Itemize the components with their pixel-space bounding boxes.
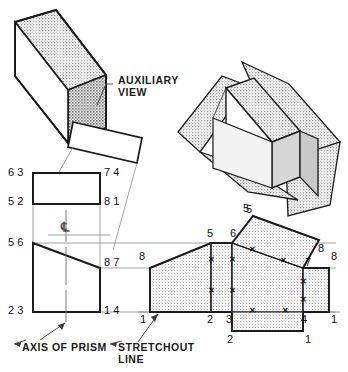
- top-view-outline: [33, 173, 100, 204]
- label-pattern-8-flap: 8: [318, 242, 324, 254]
- stretchout-line-label: STRETCHOUTLINE: [118, 341, 195, 365]
- svg-text:✕: ✕: [229, 286, 236, 295]
- wrapped-pattern-view: [178, 62, 340, 216]
- label-pattern-4: 4: [301, 313, 307, 325]
- label-top-view-7-4: 7 4: [104, 166, 119, 178]
- svg-text:✕: ✕: [249, 306, 256, 315]
- label-assembly-5: 5: [243, 202, 249, 214]
- label-pattern-1-flap: 1: [305, 333, 311, 345]
- label-pattern-2-flap: 2: [227, 333, 233, 345]
- label-pattern-5: 5: [207, 227, 213, 239]
- svg-text:✕: ✕: [282, 306, 289, 315]
- label-pattern-8-right: 8: [331, 250, 337, 262]
- label-pattern-8-left: 8: [139, 250, 145, 262]
- drawing-canvas: ✕ ✕ ✕ ✕ ✕ ✕ ✕ ✕ ✕ ✕: [0, 0, 348, 372]
- isometric-prism-view: [15, 10, 106, 143]
- label-pattern-7: 7: [305, 256, 311, 268]
- svg-text:✕: ✕: [300, 295, 307, 304]
- svg-text:✕: ✕: [229, 255, 236, 264]
- pattern-panel-2: [211, 243, 232, 312]
- centerline-symbol: ℄: [61, 220, 69, 233]
- label-front-view-5-6: 5 6: [8, 236, 23, 248]
- label-pattern-3: 3: [226, 313, 232, 325]
- label-pattern-1-left: 1: [140, 313, 146, 325]
- label-front-view-2-3: 2 3: [8, 304, 23, 316]
- label-pattern-6: 6: [230, 227, 236, 239]
- svg-text:✕: ✕: [208, 286, 215, 295]
- pattern-panel-1: [150, 243, 211, 312]
- pattern-bottom-flap: [232, 312, 303, 331]
- svg-text:✕: ✕: [208, 255, 215, 264]
- svg-text:✕: ✕: [300, 277, 307, 286]
- label-top-view-5-2: 5 2: [8, 195, 23, 207]
- svg-text:✕: ✕: [280, 256, 287, 265]
- label-pattern-2: 2: [207, 313, 213, 325]
- label-top-view-6-3: 6 3: [8, 166, 23, 178]
- front-view-outline: [33, 243, 100, 312]
- svg-text:✕: ✕: [249, 245, 256, 254]
- stretchout-pattern: ✕ ✕ ✕ ✕ ✕ ✕ ✕ ✕ ✕ ✕: [110, 216, 340, 347]
- label-top-view-8-1: 8 1: [104, 195, 119, 207]
- technical-drawing-figure: ✕ ✕ ✕ ✕ ✕ ✕ ✕ ✕ ✕ ✕: [0, 0, 348, 372]
- label-pattern-1-right: 1: [331, 313, 337, 325]
- pattern-panel-4: [303, 268, 329, 312]
- axis-of-prism-label: AXIS OF PRISM: [22, 341, 107, 353]
- label-front-view-1-4: 1 4: [104, 304, 119, 316]
- top-view: [33, 173, 100, 204]
- auxiliary-view-label: AUXILIARYVIEW: [118, 74, 179, 98]
- label-front-view-8-7: 8 7: [104, 256, 119, 268]
